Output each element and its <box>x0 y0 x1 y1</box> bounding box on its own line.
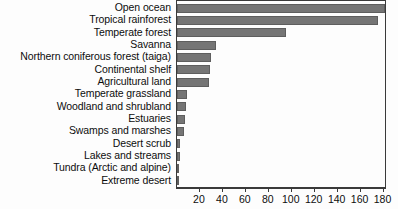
bar-row <box>177 2 385 14</box>
category-label: Extreme desert <box>0 174 174 186</box>
bars-container <box>177 1 385 187</box>
x-axis-tick-label: 160 <box>351 193 369 205</box>
x-axis-line <box>176 188 386 189</box>
x-axis-tick-label: 140 <box>328 193 346 205</box>
plot-area <box>176 0 386 188</box>
x-axis-tick-label: 120 <box>305 193 323 205</box>
bar-row <box>177 88 385 100</box>
category-label: Tundra (Arctic and alpine) <box>0 161 174 173</box>
category-label: Swamps and marshes <box>0 124 174 136</box>
bar-row <box>177 125 385 137</box>
x-axis-tick <box>199 188 200 192</box>
x-axis-tick <box>314 188 315 192</box>
bar <box>177 78 209 87</box>
x-axis-tick <box>337 188 338 192</box>
category-label: Estuaries <box>0 112 174 124</box>
bar-row <box>177 138 385 150</box>
category-label: Open ocean <box>0 1 174 13</box>
x-axis-tick-label: 20 <box>193 193 205 205</box>
x-axis-tick <box>222 188 223 192</box>
category-label: Continental shelf <box>0 63 174 75</box>
bar <box>177 4 385 13</box>
category-label: Northern coniferous forest (taiga) <box>0 50 174 62</box>
bar <box>177 164 179 173</box>
category-label: Savanna <box>0 38 174 50</box>
x-axis-tick <box>383 188 384 192</box>
category-label: Tropical rainforest <box>0 13 174 25</box>
category-label: Agricultural land <box>0 75 174 87</box>
category-label: Lakes and streams <box>0 149 174 161</box>
bar <box>177 127 184 136</box>
x-axis-tick-label: 40 <box>216 193 228 205</box>
bar-chart: Open oceanTropical rainforestTemperate f… <box>0 0 398 209</box>
bar-row <box>177 150 385 162</box>
bar <box>177 102 186 111</box>
category-label: Temperate forest <box>0 26 174 38</box>
bar <box>177 16 378 25</box>
x-axis-tick-label: 60 <box>239 193 251 205</box>
x-axis: 20406080100120140160180 <box>176 188 386 209</box>
x-axis-tick-label: 180 <box>374 193 392 205</box>
bar <box>177 152 180 161</box>
bar-row <box>177 39 385 51</box>
bar-row <box>177 101 385 113</box>
x-axis-tick <box>268 188 269 192</box>
bar-row <box>177 162 385 174</box>
bar <box>177 53 211 62</box>
bar-row <box>177 51 385 63</box>
bar <box>177 139 180 148</box>
bar-row <box>177 64 385 76</box>
x-axis-tick-label: 100 <box>282 193 300 205</box>
bar-row <box>177 76 385 88</box>
bar-row <box>177 113 385 125</box>
x-axis-tick-label: 80 <box>262 193 274 205</box>
bar-row <box>177 175 385 187</box>
bar <box>177 65 210 74</box>
x-axis-tick <box>291 188 292 192</box>
x-axis-tick <box>245 188 246 192</box>
bar-row <box>177 14 385 26</box>
bar <box>177 176 179 185</box>
bar-row <box>177 27 385 39</box>
x-axis-tick <box>360 188 361 192</box>
bar <box>177 115 185 124</box>
category-label: Temperate grassland <box>0 87 174 99</box>
bar <box>177 90 187 99</box>
category-axis-labels: Open oceanTropical rainforestTemperate f… <box>0 0 174 186</box>
category-label: Desert scrub <box>0 137 174 149</box>
category-label: Woodland and shrubland <box>0 100 174 112</box>
bar <box>177 41 216 50</box>
bar <box>177 28 286 37</box>
